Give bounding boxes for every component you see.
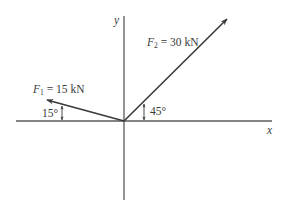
y-axis-label: y	[114, 15, 119, 27]
angle-15-label: 15°	[42, 108, 58, 120]
force-f1-label: F1 = 15 kN	[33, 84, 84, 97]
force-diagram	[0, 0, 290, 212]
x-axis-label: x	[267, 125, 272, 137]
force-f1-subscript: 1	[40, 88, 44, 97]
force-f2-value: = 30 kN	[161, 36, 199, 48]
force-f2-vector	[124, 19, 227, 121]
force-f2-symbol: F	[147, 36, 154, 48]
angle-45-label: 45°	[150, 106, 166, 118]
force-f1-vector	[47, 100, 124, 121]
force-f2-label: F2 = 30 kN	[147, 37, 198, 50]
force-f1-symbol: F	[33, 83, 40, 95]
force-f2-subscript: 2	[154, 41, 158, 50]
force-f1-value: = 15 kN	[47, 83, 85, 95]
